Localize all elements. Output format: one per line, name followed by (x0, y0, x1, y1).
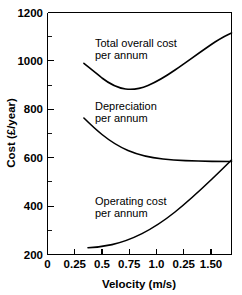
x-tick-label-1p50: 1.50 (200, 258, 222, 270)
y-axis-title: Cost (£/year) (5, 98, 17, 168)
annotation-depreciation-line1: Depreciation (95, 100, 157, 112)
y-tick-label-1000: 1000 (17, 55, 43, 67)
y-tick-label-400: 400 (24, 200, 43, 212)
x-tick-label-0: 0 (44, 258, 50, 270)
x-tick-label-1p0: 1.0 (149, 258, 165, 270)
chart-canvas: 200 400 600 800 1000 1200 0 0.25 0.5 0.7… (0, 0, 242, 295)
x-axis-title: Velocity (m/s) (102, 278, 176, 290)
cost-vs-velocity-chart: 200 400 600 800 1000 1200 0 0.25 0.5 0.7… (0, 0, 242, 295)
x-tick-label-1p25: 0.25 (173, 258, 196, 270)
y-tick-label-1200: 1200 (17, 7, 43, 19)
annotation-depreciation: Depreciation per annum (95, 100, 157, 124)
x-tick-label-0p25: 0.25 (64, 258, 87, 270)
annotation-operating-line2: per annum (95, 207, 148, 219)
x-tick-label-0p75: 0.75 (118, 258, 141, 270)
annotation-operating-line1: Operating cost (95, 195, 167, 207)
y-tick-label-200: 200 (24, 249, 43, 261)
y-tick-label-800: 800 (24, 103, 43, 115)
y-tick-label-600: 600 (24, 152, 43, 164)
annotation-depreciation-line2: per annum (95, 112, 148, 124)
x-tick-label-0p5: 0.5 (94, 258, 111, 270)
annotation-total-line1: Total overall cost (95, 37, 177, 49)
annotation-total-line2: per annum (95, 49, 148, 61)
